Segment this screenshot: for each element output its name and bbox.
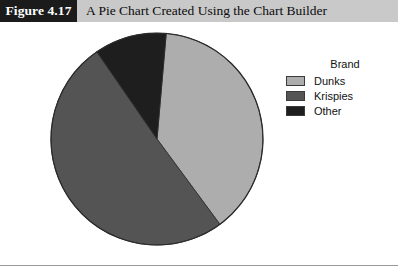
figure-header: Figure 4.17 A Pie Chart Created Using th… [0, 0, 398, 22]
legend-label-dunks: Dunks [314, 76, 345, 87]
legend-title: Brand [300, 58, 390, 70]
legend-swatch-other [286, 106, 305, 116]
legend-label-other: Other [314, 106, 342, 117]
legend-swatch-krispies [286, 91, 305, 101]
legend-item-krispies[interactable]: Krispies [286, 89, 390, 103]
figure-number-badge: Figure 4.17 [0, 0, 77, 22]
figure-page: Figure 4.17 A Pie Chart Created Using th… [0, 0, 398, 273]
pie-chart [0, 22, 398, 254]
figure-title: A Pie Chart Created Using the Chart Buil… [77, 0, 398, 22]
chart-legend: Brand Dunks Krispies Other [286, 58, 390, 119]
legend-swatch-dunks [286, 76, 305, 86]
legend-label-krispies: Krispies [314, 91, 353, 102]
pie-slice-group [51, 33, 263, 245]
page-divider-rule [0, 265, 398, 266]
legend-item-other[interactable]: Other [286, 104, 390, 118]
chart-plot-area: Brand Dunks Krispies Other [0, 22, 398, 254]
legend-item-dunks[interactable]: Dunks [286, 74, 390, 88]
